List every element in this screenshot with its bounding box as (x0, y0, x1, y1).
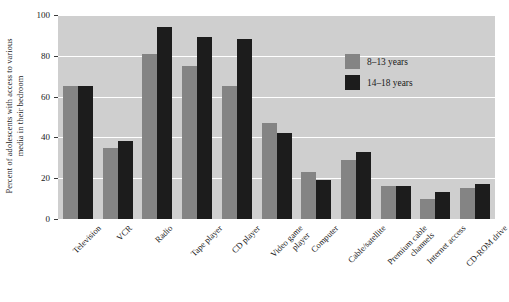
bar (222, 86, 237, 219)
x-label-cell: Video gameplayer (257, 221, 297, 301)
bar-group (336, 15, 376, 219)
bar-group (58, 15, 98, 219)
bar-groups (58, 15, 495, 219)
y-axis-title-line-1: Percent of adolescents with access to va… (4, 38, 15, 193)
bar (262, 123, 277, 219)
bar (435, 192, 450, 219)
bar (182, 66, 197, 219)
bar (341, 160, 356, 219)
x-label-cell: Computer (296, 221, 336, 301)
bar (157, 27, 172, 219)
bar (420, 199, 435, 219)
legend-item-old: 14–18 years (345, 75, 413, 90)
legend-label-young: 8–13 years (367, 57, 408, 67)
y-tick-label: 20 (26, 173, 50, 183)
bar (118, 141, 133, 219)
x-label-cell: CD player (217, 221, 257, 301)
legend-swatch-icon-young (345, 54, 360, 69)
x-label-cell: Cable/satellite (336, 221, 376, 301)
bar (316, 180, 331, 219)
bar-group (296, 15, 336, 219)
x-label-cell: VCR (98, 221, 138, 301)
bar-group (376, 15, 416, 219)
x-axis-label: Radio (153, 223, 175, 245)
y-axis-title: Percent of adolescents with access to va… (0, 0, 30, 232)
bar (142, 54, 157, 219)
bar-group (137, 15, 177, 219)
x-axis-label-line: CD-ROM drive (464, 223, 509, 268)
x-label-cell: Tape player (177, 221, 217, 301)
y-tick-label: 100 (26, 10, 50, 20)
x-axis-labels: TelevisionVCRRadioTape playerCD playerVi… (58, 221, 495, 301)
bar-group (416, 15, 456, 219)
legend: 8–13 years 14–18 years (345, 54, 413, 96)
bar (237, 39, 252, 219)
y-tick-label: 60 (26, 92, 50, 102)
bar-group (455, 15, 495, 219)
bar-group (217, 15, 257, 219)
bar (301, 172, 316, 219)
y-tick-label: 0 (26, 214, 50, 224)
bar (356, 152, 371, 219)
bar (63, 86, 78, 219)
x-axis-label-line: Radio (153, 223, 175, 245)
x-label-cell: Radio (137, 221, 177, 301)
legend-label-old: 14–18 years (367, 78, 413, 88)
x-label-cell: Internet access (416, 221, 456, 301)
y-tick-label: 80 (26, 51, 50, 61)
x-axis-label-line: VCR (114, 223, 134, 243)
bar (381, 186, 396, 219)
bar-group (177, 15, 217, 219)
bar (277, 133, 292, 219)
bar (103, 148, 118, 219)
x-label-cell: Premium cablechannels (376, 221, 416, 301)
x-axis-label: VCR (114, 223, 134, 243)
bar (78, 86, 93, 219)
x-label-cell: CD-ROM drive (455, 221, 495, 301)
bar (396, 186, 411, 219)
bar-group (98, 15, 138, 219)
y-axis-title-line-2: media in their bedroom (15, 38, 26, 193)
y-tick-mark (54, 219, 58, 220)
plot-area: 8–13 years 14–18 years (58, 15, 495, 219)
bar (475, 184, 490, 219)
x-axis-label: CD-ROM drive (464, 223, 509, 268)
y-tick-label: 40 (26, 132, 50, 142)
legend-swatch-icon-old (345, 75, 360, 90)
bar-group (257, 15, 297, 219)
bar (460, 188, 475, 219)
bar (197, 37, 212, 219)
x-label-cell: Television (58, 221, 98, 301)
legend-item-young: 8–13 years (345, 54, 413, 69)
